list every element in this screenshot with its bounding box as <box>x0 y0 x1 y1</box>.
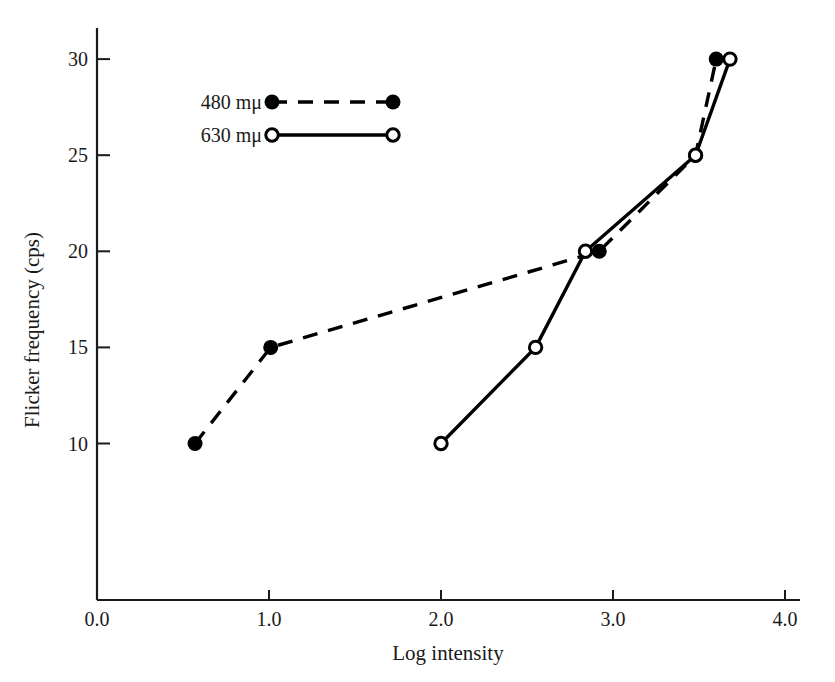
data-point-open-circle <box>724 53 736 65</box>
data-point-open-circle <box>689 149 701 161</box>
data-point-filled-circle <box>263 340 278 355</box>
y-tick-label: 30 <box>50 48 88 71</box>
data-point-open-circle <box>435 437 447 449</box>
y-tick-label: 15 <box>50 336 88 359</box>
legend-label: 480 mμ <box>140 91 262 114</box>
x-tick-label: 0.0 <box>85 608 110 631</box>
legend-label: 630 mμ <box>140 124 262 147</box>
data-point-filled-circle <box>188 436 203 451</box>
data-point-open-circle <box>579 245 591 257</box>
y-axis-label: Flicker frequency (cps) <box>20 232 45 428</box>
y-tick-label: 25 <box>50 144 88 167</box>
data-point-filled-circle <box>709 52 724 67</box>
legend-marker-filled-circle <box>386 95 401 110</box>
y-axis-ticks <box>97 59 110 443</box>
x-axis-label: Log intensity <box>392 641 503 666</box>
series-layer <box>188 52 737 451</box>
x-axis-ticks <box>97 590 785 600</box>
x-tick-label: 4.0 <box>773 608 798 631</box>
chart-plot-area <box>0 0 835 682</box>
series-line-480-mμ <box>195 59 716 443</box>
y-tick-label: 20 <box>50 240 88 263</box>
data-point-open-circle <box>529 341 541 353</box>
x-tick-label: 1.0 <box>257 608 282 631</box>
x-tick-label: 2.0 <box>429 608 454 631</box>
legend-marker-filled-circle <box>265 95 280 110</box>
legend-marker-open-circle <box>387 129 399 141</box>
y-tick-label: 10 <box>50 432 88 455</box>
data-point-filled-circle <box>592 244 607 259</box>
x-tick-label: 3.0 <box>601 608 626 631</box>
legend-marker-open-circle <box>266 129 278 141</box>
chart-figure: 0.01.02.03.04.0 1015202530 480 mμ630 mμ … <box>0 0 835 682</box>
legend-glyphs <box>265 95 401 142</box>
